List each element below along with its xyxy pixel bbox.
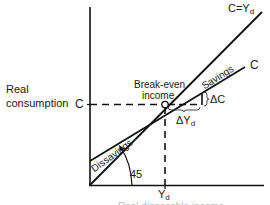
line-45-subscript: d xyxy=(250,7,254,16)
line-45-label: C=Yd xyxy=(228,2,254,18)
consumption-line-label: C xyxy=(250,59,259,71)
delta-c-brace xyxy=(204,92,209,106)
breakeven-point xyxy=(162,101,168,107)
delta-yd-label: ΔYd xyxy=(176,114,195,130)
c-tick-label: C xyxy=(75,98,84,110)
delta-yd-subscript: d xyxy=(191,119,195,128)
x-axis-label: Real disposable income xyxy=(118,201,224,205)
delta-yd-text: ΔY xyxy=(176,114,191,126)
line-45-text: C=Y xyxy=(228,2,250,14)
breakeven-label-line2: income xyxy=(142,90,174,102)
y-axis-label-line2: consumption xyxy=(6,97,68,109)
angle-45-label: 45 xyxy=(130,168,142,180)
delta-c-label: ΔC xyxy=(210,93,225,105)
y-axis-label-line1: Real xyxy=(6,83,29,95)
